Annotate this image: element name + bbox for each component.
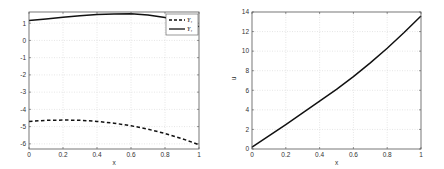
x-tick-label: 0.2 [58,151,67,158]
plot-area [252,12,421,149]
y-tick-label: 14 [242,8,250,15]
y-tick-label: -3 [20,88,26,95]
y-tick-label: -4 [20,106,26,113]
y-tick-label: 12 [242,28,250,35]
y-tick-label: 4 [245,106,249,113]
y-axis-label: u [230,76,237,80]
x-tick-label: 0.6 [349,151,358,158]
y-tick-label: 0 [22,37,26,44]
figure: 00.20.40.60.81-6-5-4-3-2-101xY₁Y₁ 00.20.… [0,0,444,169]
y-tick-label: 10 [242,47,250,54]
y-tick-label: 2 [245,126,249,133]
x-axis-label: x [112,159,116,166]
legend-label: Y₁ [187,26,192,32]
y-tick-label: -1 [20,54,26,61]
right-plot: 00.20.40.60.8102468101214xu [230,8,423,166]
x-axis-label: x [335,159,339,166]
x-tick-label: 0.4 [92,151,101,158]
x-tick-label: 0.8 [160,151,169,158]
x-tick-label: 0 [250,151,254,158]
legend: Y₁Y₁ [166,14,198,35]
legend-label: Y₁ [187,17,192,23]
x-tick-label: 0.6 [126,151,135,158]
y-tick-label: 8 [245,67,249,74]
legend-box [166,14,198,35]
x-tick-label: 0 [27,151,31,158]
x-tick-label: 0.4 [315,151,324,158]
y-tick-label: 0 [245,145,249,152]
x-tick-label: 1 [197,151,201,158]
y-tick-label: -2 [20,71,26,78]
y-tick-label: 1 [22,20,26,27]
y-tick-label: -6 [20,140,26,147]
x-tick-label: 1 [419,151,423,158]
left-plot: 00.20.40.60.81-6-5-4-3-2-101xY₁Y₁ [20,12,201,166]
x-tick-label: 0.8 [383,151,392,158]
y-tick-label: 6 [245,87,249,94]
y-tick-label: -5 [20,123,26,130]
x-tick-label: 0.2 [281,151,290,158]
